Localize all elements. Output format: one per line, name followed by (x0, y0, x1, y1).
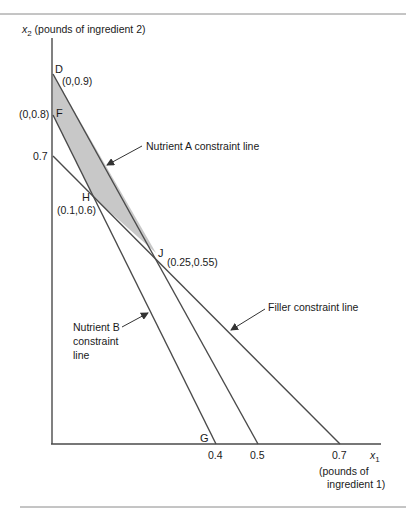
point-h-coord: (0.1,0.6) (57, 204, 96, 216)
x-axis-var: x1 (369, 449, 380, 464)
nutrient-b-label-line1: Nutrient B (73, 321, 120, 333)
point-f-label: F (56, 107, 63, 119)
filler-arrow (231, 309, 265, 330)
filler-constraint-line (53, 156, 340, 444)
nutrient-a-label: Nutrient A constraint line (146, 140, 259, 152)
x-tick-label: 0.4 (208, 449, 223, 461)
point-j-label: J (158, 247, 164, 259)
x-axis-sub: 1 (375, 455, 380, 464)
point-g-label: G (200, 432, 209, 444)
y-tick-label: (0,0.8) (19, 108, 49, 120)
y-axis-text: (pounds of ingredient 2) (32, 23, 146, 35)
filler-label: Filler constraint line (268, 301, 359, 313)
x-tick-label: 0.5 (250, 449, 265, 461)
point-h-label: H (82, 191, 90, 203)
nutrient-b-constraint-line (53, 115, 216, 444)
nutrient-b-label-line2: constraint (73, 335, 119, 347)
point-d-label: D (55, 63, 63, 75)
nutrient-b-arrow (122, 313, 148, 327)
point-j-coord: (0.25,0.55) (167, 256, 218, 268)
point-d-coord: (0,0.9) (62, 75, 92, 87)
x-axis-title-line2: ingredient 1) (327, 478, 385, 490)
y-tick-label: 0.7 (33, 150, 48, 162)
x-tick-label: 0.7 (332, 449, 347, 461)
nutrient-b-label-line3: line (73, 349, 90, 361)
x-axis-title-line1: (pounds of (319, 465, 369, 477)
nutrient-a-arrow (107, 146, 142, 165)
y-axis-title: x2 (pounds of ingredient 2) (21, 23, 146, 38)
feasible-region-diagram: x2 (pounds of ingredient 2) x1 (pounds o… (0, 0, 406, 509)
